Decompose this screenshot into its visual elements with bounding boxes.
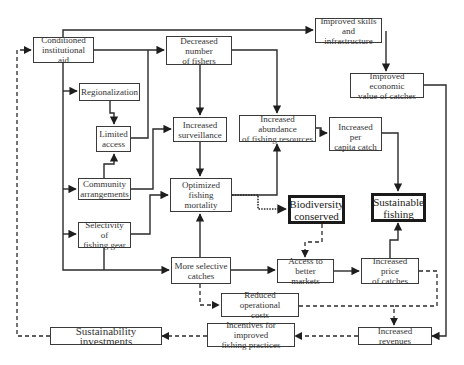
edge-fishers-to-abundance (232, 50, 277, 113)
node-increased-revenues: Increased revenues (358, 327, 432, 345)
edge-reduced-to-revenues (299, 306, 394, 325)
edge-selectivity-to-mortality (131, 195, 168, 234)
edge-abundance-to-percapita (316, 128, 327, 133)
node-increased-price-of-catches: Increased price of catches (361, 258, 419, 284)
node-more-selective-catches: More selective catches (171, 257, 231, 284)
node-reduced-operational-costs: Reduced operational costs (221, 293, 299, 317)
edge-investments-to-aid (17, 50, 50, 336)
edge-community-to-limited (104, 154, 114, 178)
node-community-arrangements: Community arrangements (78, 178, 131, 200)
node-increased-abundance: Increased abundance of fishing resources (239, 115, 316, 142)
edge-mortality-to-abundance (232, 144, 277, 195)
node-incentives-improved-practices: Incentives for improved fishing practice… (207, 323, 295, 347)
node-regionalization: Regionalization (79, 83, 140, 101)
edge-selective-to-reduced (200, 284, 219, 305)
node-sustainability-investments: Sustainability investments (50, 327, 162, 345)
edge-mortality-to-biodiversity (232, 195, 286, 209)
node-access-to-better-markets: Access to better markets (277, 259, 334, 283)
node-selectivity-of-fishing-gear: Selectivity of fishing gear (78, 222, 131, 248)
edge-price-to-sustainable (390, 223, 398, 258)
node-decreased-number-of-fishers: Decreased number of fishers (166, 36, 232, 65)
edge-regionalization-to-limited (110, 101, 114, 124)
node-conditioned-institutional-aid: Conditioned institutional aid (33, 37, 94, 63)
node-sustainable-fishing: Sustainable fishing (371, 193, 426, 222)
node-limited-access: Limited access (96, 126, 131, 152)
edge-economic-to-revenues (424, 85, 446, 336)
node-optimized-fishing-mortality: Optimized fishing mortality (170, 178, 232, 212)
edge-percapita-to-sustainable (382, 133, 398, 191)
node-biodiversity-conserved: Biodiversity conserved (288, 195, 345, 224)
node-improved-economic-value: Improved economic value of catches (350, 73, 424, 98)
node-increased-per-capita-catch: Increased per capita catch (329, 117, 382, 151)
edge-biodiversity-to-access (305, 224, 322, 257)
node-improved-skills: Improved skills and infrastructure (315, 18, 382, 43)
node-increased-surveillance: Increased surveillance (173, 117, 227, 142)
